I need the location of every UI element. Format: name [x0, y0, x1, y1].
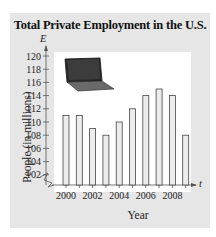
x-tick-label: 2006: [136, 190, 156, 201]
bar-chart: 1021041061081101121141161181202000200220…: [10, 13, 210, 228]
bar-2001: [76, 115, 82, 185]
bar-2007: [156, 89, 162, 185]
bar-2000: [63, 115, 69, 185]
bar-2005: [130, 109, 136, 185]
bar-2002: [90, 129, 96, 185]
x-axis-label: Year: [10, 209, 210, 221]
bar-2009: [183, 135, 189, 185]
laptop-base-icon: [67, 81, 114, 91]
x-tick-label: 2004: [109, 190, 129, 201]
x-tick-label: 2002: [83, 190, 103, 201]
bar-2003: [103, 135, 109, 185]
y-tick-label: 118: [26, 64, 41, 75]
bar-2004: [116, 122, 122, 185]
x-tick-label: 2008: [162, 190, 182, 201]
bar-2006: [143, 96, 149, 185]
y-tick-label: 120: [26, 51, 41, 62]
x-axis-variable: t: [199, 178, 202, 189]
y-axis-variable: E: [40, 33, 46, 44]
y-axis-label: People (in millions): [21, 82, 33, 192]
chart-card: Total Private Employment in the U.S. 102…: [10, 13, 210, 228]
bar-2008: [169, 96, 175, 185]
x-tick-label: 2000: [56, 190, 76, 201]
